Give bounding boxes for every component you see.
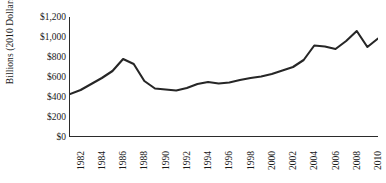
x-axis-tick-label: 1988: [139, 141, 150, 181]
y-axis-tick-label: $1,200: [20, 12, 66, 22]
x-axis-tick-label: 2000: [266, 141, 277, 181]
x-axis-tick-label: 1982: [75, 141, 86, 181]
data-series-line: [70, 17, 378, 137]
y-axis-title: Billions (2010 Dollars): [3, 0, 17, 94]
y-axis-tick-label: $400: [20, 92, 66, 102]
x-axis-tick-label: 2004: [309, 141, 320, 181]
x-axis-tick-label: 1984: [96, 141, 107, 181]
y-axis-tick-label: $600: [20, 72, 66, 82]
x-axis-tick-label: 2010: [373, 141, 384, 181]
y-axis-tick-label: $200: [20, 112, 66, 122]
y-axis-tick-label: $0: [20, 132, 66, 142]
x-axis-tick-label: 1998: [245, 141, 256, 181]
x-axis-tick-label: 1996: [224, 141, 235, 181]
y-axis-tick-label: $800: [20, 52, 66, 62]
x-axis-tick-labels: 1982198419861988199019921994199619982000…: [70, 137, 378, 183]
line-chart-figure: Billions (2010 Dollars) $1,200$1,000$800…: [0, 0, 386, 183]
y-axis-tick-label: $1,000: [20, 32, 66, 42]
x-axis-tick-label: 1990: [160, 141, 171, 181]
x-axis-tick-label: 1986: [118, 141, 129, 181]
x-axis-tick-label: 1994: [203, 141, 214, 181]
plot-area: [70, 17, 378, 137]
x-axis-tick-label: 1992: [181, 141, 192, 181]
x-axis-tick-label: 2008: [351, 141, 362, 181]
x-axis-tick-label: 2006: [330, 141, 341, 181]
x-axis-tick-label: 2002: [288, 141, 299, 181]
y-axis-tick-labels: $1,200$1,000$800$600$400$200$0: [20, 0, 66, 183]
